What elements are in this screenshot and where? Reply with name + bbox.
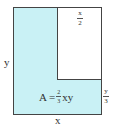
- numerator: 2: [57, 89, 60, 95]
- denominator: 3: [57, 98, 60, 104]
- label-y-side: y: [4, 57, 10, 68]
- area-prefix: A =: [39, 91, 55, 103]
- area-formula: A = 2 3 xy: [39, 89, 73, 104]
- diagram-canvas: [0, 0, 113, 125]
- label-y-over-3: y 3: [103, 88, 109, 105]
- area-suffix: xy: [62, 91, 73, 103]
- fraction-bar: [56, 96, 61, 97]
- denominator: 3: [104, 98, 108, 105]
- numerator: y: [104, 88, 108, 95]
- denominator: 2: [78, 20, 82, 27]
- label-x-side: x: [55, 115, 61, 125]
- numerator: x: [78, 10, 82, 17]
- label-x-over-2: x 2: [77, 10, 83, 27]
- area-fraction: 2 3: [56, 89, 61, 104]
